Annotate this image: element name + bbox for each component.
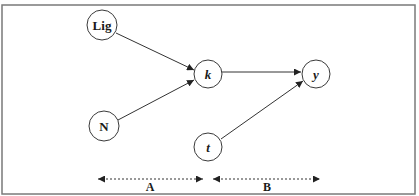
nodes: LigNkyt bbox=[87, 10, 330, 161]
node-label: y bbox=[311, 67, 319, 82]
edge-t-to-y-arrow bbox=[221, 81, 303, 139]
edge-n-to-k-arrow bbox=[118, 80, 194, 120]
span-label: B bbox=[263, 180, 271, 194]
node-t: t bbox=[194, 133, 222, 161]
span-B: B bbox=[213, 179, 320, 194]
node-y: y bbox=[302, 60, 330, 88]
node-label: Lig bbox=[93, 18, 112, 33]
node-lig: Lig bbox=[87, 10, 117, 40]
edge-lig-to-k-arrow bbox=[116, 33, 194, 70]
node-label: k bbox=[205, 67, 212, 82]
span-label: A bbox=[146, 180, 155, 194]
causal-diagram: AB LigNkyt bbox=[0, 0, 419, 196]
span-A: A bbox=[98, 179, 203, 194]
spans: AB bbox=[98, 179, 320, 194]
node-k: k bbox=[194, 60, 222, 88]
node-n: N bbox=[89, 111, 119, 141]
node-label: N bbox=[99, 119, 109, 134]
node-label: t bbox=[206, 140, 210, 155]
diagram-frame bbox=[2, 5, 415, 194]
